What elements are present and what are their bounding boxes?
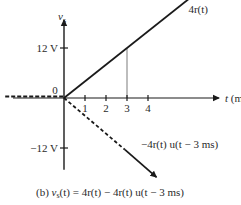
ramp-4r-label: 4r(t) xyxy=(188,3,208,16)
waveform-diagram: 123412 V−12 V0t (ms)vs4r(t)−4r(t) u(t − … xyxy=(0,0,241,205)
x-axis-label: t (ms) xyxy=(225,92,241,105)
x-tick-label: 1 xyxy=(82,102,88,114)
ramp-4r-line xyxy=(64,0,198,98)
caption: (b) vs(t) = 4r(t) − 4r(t) u(t − 3 ms) xyxy=(36,186,184,200)
neg-ramp-dashed-segment xyxy=(64,98,125,150)
neg-ramp-label: −4r(t) u(t − 3 ms) xyxy=(141,138,219,151)
y-tick-label: 12 V xyxy=(37,42,59,54)
x-tick-label: 2 xyxy=(103,102,109,114)
x-tick-label: 4 xyxy=(145,102,151,114)
neg-ramp-solid-segment xyxy=(125,150,156,178)
y-tick-label: −12 V xyxy=(30,142,58,154)
origin-label: 0 xyxy=(52,84,58,96)
x-tick-label: 3 xyxy=(124,102,130,114)
y-axis-label: vs xyxy=(58,10,66,25)
